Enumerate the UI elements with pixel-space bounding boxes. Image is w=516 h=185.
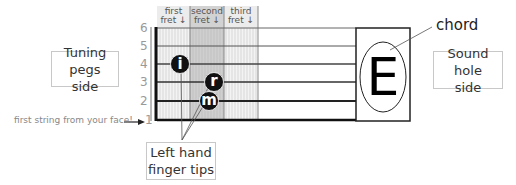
fret-header-2: second fret ↓ — [190, 7, 224, 25]
string-number-2: 2 — [140, 94, 148, 108]
string-number-1: 1 — [145, 113, 153, 127]
sound-hole-line1: Sound hole — [434, 45, 502, 79]
tuning-pegs-line1: Tuning pegs — [52, 44, 118, 78]
string-number-6: 6 — [140, 21, 148, 35]
sound-hole-box: Sound hole side — [433, 51, 503, 89]
finger-letter-m: m — [200, 91, 218, 109]
chord-label: chord — [436, 16, 478, 34]
fret-header-3-line2: fret ↓ — [224, 16, 258, 25]
finger-tips-line1: Left hand — [147, 144, 215, 161]
fret-cell-3 — [224, 28, 258, 120]
sound-hole-line2: side — [434, 79, 502, 96]
arrow-right-icon — [138, 119, 145, 125]
chord-name: E — [360, 47, 406, 107]
tuning-pegs-box: Tuning pegs side — [51, 51, 119, 87]
fret-header-2-line2: fret ↓ — [190, 16, 224, 25]
fret-header-1-line2: fret ↓ — [157, 16, 190, 25]
fret-header-3: third fret ↓ — [224, 7, 258, 25]
string-number-4: 4 — [140, 57, 148, 71]
finger-letter-i: i — [171, 55, 189, 73]
tuning-pegs-line2: side — [52, 78, 118, 95]
string-number-3: 3 — [140, 75, 148, 89]
first-string-label: first string from your face! — [14, 115, 133, 125]
finger-tips-line2: finger tips — [147, 161, 215, 178]
string-number-5: 5 — [140, 39, 148, 53]
finger-tips-box: Left hand finger tips — [146, 142, 216, 180]
fret-header-1: first fret ↓ — [157, 7, 190, 25]
finger-letter-r: r — [205, 72, 223, 90]
fret-cell-1 — [157, 28, 190, 120]
